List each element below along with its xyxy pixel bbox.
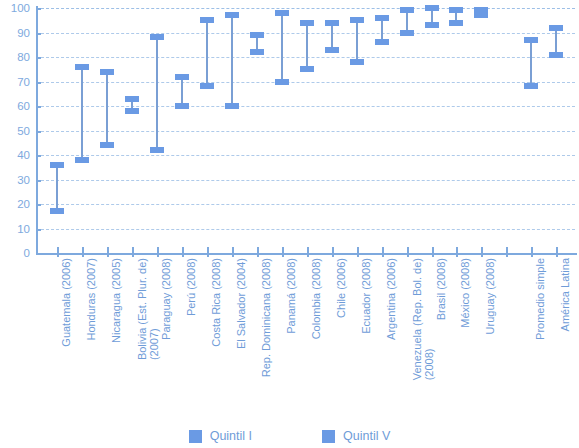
- y-axis-tick-mark: [36, 229, 41, 231]
- x-axis-category-label: México (2008): [460, 258, 472, 328]
- category-label-line: Uruguay (2008): [484, 258, 496, 334]
- quintil-v-marker: [549, 25, 563, 31]
- category-label-line: Chile (2006): [335, 258, 347, 318]
- category-label-line: Paraguay (2008): [160, 258, 172, 340]
- gridline: [36, 204, 575, 205]
- y-axis-tick-label: 50: [0, 125, 30, 137]
- quintil-v-marker: [275, 10, 289, 16]
- quintil-i-marker: [400, 30, 414, 36]
- x-axis-tick-mark: [232, 247, 234, 257]
- category-label-line: Costa Rica (2008): [210, 258, 222, 347]
- x-axis-category-label: Bolivia (Est. Plur. de)(2007): [137, 258, 160, 360]
- x-axis-tick-mark: [307, 247, 309, 257]
- x-axis-category-label: Brasil (2008): [436, 258, 448, 320]
- quintil-i-marker: [275, 79, 289, 85]
- x-axis-category-label: Chile (2006): [336, 258, 348, 318]
- y-axis-tick-mark: [36, 33, 41, 35]
- category-label-line: El Salvador (2004): [235, 258, 247, 349]
- range-chart: 1009080706050403020100 Guatemala (2006)H…: [0, 0, 579, 448]
- quintil-i-marker: [425, 22, 439, 28]
- quintil-v-marker: [175, 74, 189, 80]
- x-axis-category-label: Argentina (2006): [386, 258, 398, 340]
- x-axis-category-label: Uruguay (2008): [485, 258, 497, 334]
- x-axis-category-label: Costa Rica (2008): [211, 258, 223, 347]
- x-axis-category-label: Venezuela (Rep. Bol. de)(2008): [412, 258, 435, 380]
- quintil-i-marker: [100, 142, 114, 148]
- y-axis-tick-label: 20: [0, 198, 30, 210]
- x-axis-category-label: Perú (2008): [186, 258, 198, 316]
- range-stem: [106, 72, 108, 146]
- x-axis-tick-mark: [57, 247, 59, 257]
- x-axis-category-label: Colombia (2008): [311, 258, 323, 339]
- x-axis-tick-mark: [257, 247, 259, 257]
- y-axis-tick-mark: [36, 180, 41, 182]
- quintil-i-marker: [150, 147, 164, 153]
- category-label-line: Colombia (2008): [310, 258, 322, 339]
- quintil-v-marker: [400, 7, 414, 13]
- quintil-i-marker: [50, 208, 64, 214]
- x-axis-tick-mark: [357, 247, 359, 257]
- x-axis-tick-mark: [481, 247, 483, 257]
- category-label-line: Panamá (2008): [285, 258, 297, 334]
- y-axis-tick-label: 100: [0, 2, 30, 14]
- x-axis-tick-mark: [157, 247, 159, 257]
- legend-label: Quintil I: [210, 429, 252, 443]
- quintil-v-marker: [100, 69, 114, 75]
- quintil-i-marker: [350, 59, 364, 65]
- category-label-line: Argentina (2006): [385, 258, 397, 340]
- x-axis-tick-mark: [531, 247, 533, 257]
- quintil-v-marker: [250, 32, 264, 38]
- gridline: [36, 131, 575, 132]
- x-axis-tick-mark: [82, 247, 84, 257]
- gridline: [36, 229, 575, 230]
- x-axis-category-label: Ecuador (2008): [361, 258, 373, 334]
- x-axis-tick-mark: [107, 247, 109, 257]
- x-axis-tick-mark: [432, 247, 434, 257]
- range-stem: [331, 23, 333, 50]
- quintil-v-marker: [75, 64, 89, 70]
- gridline: [36, 106, 575, 107]
- y-axis-tick-mark: [36, 8, 41, 10]
- gridline: [36, 8, 575, 9]
- range-stem: [555, 28, 557, 55]
- x-axis-tick-mark: [407, 247, 409, 257]
- x-axis-category-label: América Latina: [560, 258, 572, 331]
- x-axis-category-label: Promedio simple: [535, 258, 547, 340]
- x-axis-tick-mark: [556, 247, 558, 257]
- x-axis-tick-mark: [282, 247, 284, 257]
- quintil-i-marker: [449, 20, 463, 26]
- category-label-line: Nicaragua (2005): [110, 258, 122, 343]
- quintil-v-marker: [325, 20, 339, 26]
- quintil-v-marker: [449, 7, 463, 13]
- range-stem: [356, 20, 358, 62]
- x-axis-category-label: Honduras (2007): [86, 258, 98, 341]
- range-stem: [206, 20, 208, 86]
- category-label-line: (2007): [149, 258, 161, 360]
- category-label-line: (2008): [423, 258, 435, 380]
- range-stem: [156, 37, 158, 150]
- quintil-i-marker: [474, 12, 488, 18]
- y-axis-tick-mark: [36, 131, 41, 133]
- legend-label: Quintil V: [343, 429, 390, 443]
- category-label-line: México (2008): [459, 258, 471, 328]
- legend-swatch-icon: [189, 430, 202, 443]
- quintil-i-marker: [200, 83, 214, 89]
- category-label-line: América Latina: [559, 258, 571, 331]
- x-axis-tick-mark: [456, 247, 458, 257]
- quintil-v-marker: [375, 15, 389, 21]
- x-axis-tick-mark: [132, 247, 134, 257]
- quintil-i-marker: [175, 103, 189, 109]
- x-axis-category-label: El Salvador (2004): [236, 258, 248, 349]
- quintil-i-marker: [300, 66, 314, 72]
- x-axis-category-label: Nicaragua (2005): [111, 258, 123, 343]
- quintil-v-marker: [150, 34, 164, 40]
- legend-item: Quintil V: [322, 429, 390, 443]
- x-axis-tick-mark: [182, 247, 184, 257]
- range-stem: [81, 67, 83, 160]
- quintil-v-marker: [524, 37, 538, 43]
- y-axis-tick-mark: [36, 253, 41, 255]
- quintil-i-marker: [375, 39, 389, 45]
- quintil-v-marker: [300, 20, 314, 26]
- quintil-i-marker: [75, 157, 89, 163]
- y-axis-tick-label: 10: [0, 223, 30, 235]
